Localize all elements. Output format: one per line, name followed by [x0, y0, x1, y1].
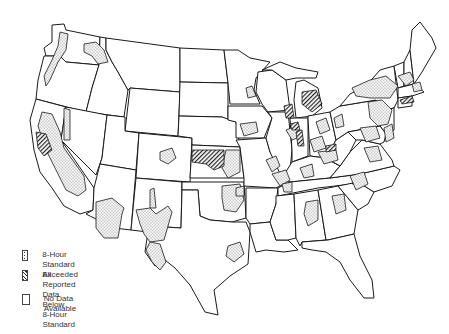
legend-item-nodata: No Data Available	[22, 294, 80, 314]
state-florida	[302, 234, 374, 298]
area-milwaukee	[284, 104, 294, 118]
area-tulsa	[236, 186, 244, 196]
area-phoenix	[96, 198, 124, 238]
state-wyoming	[125, 88, 180, 136]
hatch-swatch-icon	[22, 270, 28, 281]
state-south-dakota	[179, 82, 228, 120]
state-maine	[410, 22, 436, 84]
stipple-swatch-icon	[22, 250, 28, 261]
blank-swatch-icon	[22, 294, 30, 305]
area-memphis	[282, 182, 292, 192]
state-north-dakota	[180, 48, 228, 83]
area-sierra	[64, 108, 70, 140]
area-maine-coast	[412, 82, 422, 92]
legend-label-nodata: No Data Available	[44, 294, 81, 314]
